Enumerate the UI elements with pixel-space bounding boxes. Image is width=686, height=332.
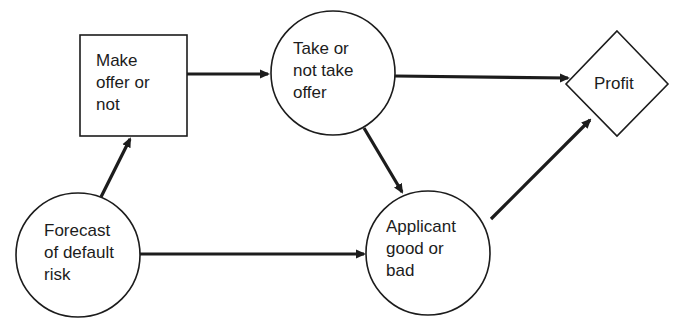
forecast-label: Forecast of default risk	[44, 220, 114, 286]
edge-applicant-to-profit	[491, 120, 590, 219]
profit-label: Profit	[594, 73, 634, 95]
take-offer-label: Take or not take offer	[293, 38, 354, 104]
make-offer-label: Make offer or not	[96, 50, 150, 116]
edge-take-offer-to-profit	[395, 76, 568, 78]
edge-take-offer-to-applicant	[364, 128, 402, 192]
applicant-label: Applicant good or bad	[386, 216, 456, 282]
edge-forecast-to-make-offer	[101, 139, 130, 197]
influence-diagram: Make offer or not Take or not take offer…	[0, 0, 686, 332]
